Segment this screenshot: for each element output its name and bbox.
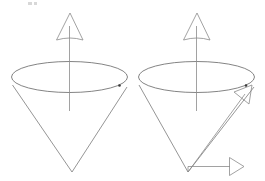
right-cone-slant-left	[139, 85, 188, 172]
figure-canvas	[0, 0, 265, 181]
cone-diagram-svg	[0, 0, 265, 181]
left-cone-rim-dot	[118, 84, 121, 87]
right-cone-rim-dot	[245, 84, 248, 87]
left-cone-slant-right	[72, 87, 127, 172]
scan-artifact-mark	[28, 2, 32, 5]
right-cone-panel	[139, 13, 255, 176]
right-cone-horizontal-vector-arrowhead	[230, 158, 245, 176]
left-cone-slant-left	[13, 85, 73, 172]
left-cone-panel	[12, 13, 128, 172]
scan-artifact-group	[28, 2, 37, 5]
scan-artifact-mark	[34, 2, 37, 5]
